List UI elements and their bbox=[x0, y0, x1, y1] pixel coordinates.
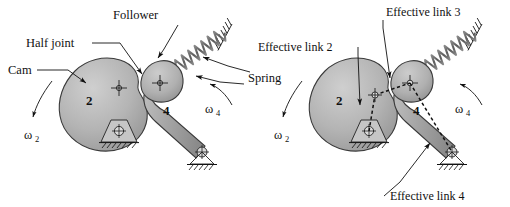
link-4-number-left: 4 bbox=[163, 103, 170, 118]
spring-assembly-right bbox=[422, 18, 484, 74]
omega2-arrow-left bbox=[33, 81, 52, 117]
spring-assembly-left bbox=[172, 18, 234, 74]
omega4-arrow-right bbox=[460, 84, 482, 105]
panel-effective: 2 bbox=[258, 5, 483, 203]
omega2-sub-left: 2 bbox=[35, 134, 39, 144]
spring-coil-left bbox=[172, 27, 229, 74]
effective-link-4-label: Effective link 4 bbox=[390, 189, 464, 203]
omega2-label-right: ω bbox=[274, 128, 282, 142]
link-2-number-left: 2 bbox=[86, 93, 93, 108]
omega2-label-left: ω bbox=[24, 128, 32, 142]
omega4-label-left: ω bbox=[205, 102, 213, 116]
panel-physical: 2 bbox=[8, 8, 282, 170]
mechanism-diagram: 2 bbox=[0, 0, 510, 207]
follower-leader bbox=[158, 25, 178, 58]
omega4-label-right: ω bbox=[455, 102, 463, 116]
omega2-sub-right: 2 bbox=[285, 134, 289, 144]
effective-link-2-label: Effective link 2 bbox=[258, 40, 332, 54]
cam-label: Cam bbox=[8, 63, 32, 77]
figure-canvas: 2 bbox=[0, 0, 510, 207]
half-joint-label: Half joint bbox=[26, 36, 75, 50]
spring-leader-upper bbox=[203, 57, 250, 72]
omega4-sub-left: 4 bbox=[216, 108, 221, 118]
spring-label: Spring bbox=[248, 71, 282, 85]
omega4-arrow-left bbox=[210, 84, 232, 105]
link-4-number-right: 4 bbox=[413, 103, 420, 118]
omega4-sub-right: 4 bbox=[466, 108, 471, 118]
omega2-arrow-right bbox=[283, 81, 302, 117]
spring-leader-lower bbox=[196, 76, 244, 84]
spring-coil-right bbox=[422, 27, 479, 74]
follower-label: Follower bbox=[113, 8, 159, 22]
link-2-number-right: 2 bbox=[336, 93, 343, 108]
effective-link-3-label: Effective link 3 bbox=[386, 5, 460, 19]
